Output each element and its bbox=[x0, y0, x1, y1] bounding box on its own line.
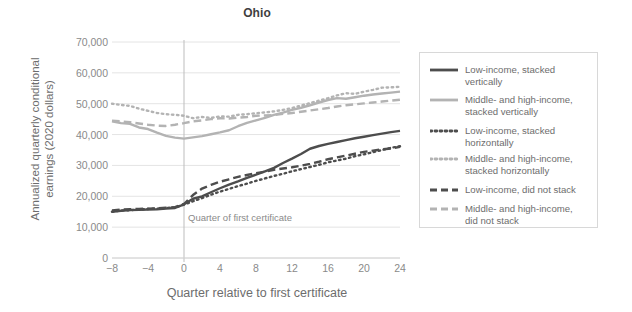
legend-item[interactable]: Middle- and high-income, did not stack bbox=[430, 203, 573, 226]
legend-item[interactable]: Low-income, stacked horizontally bbox=[430, 125, 555, 148]
x-axis-label: Quarter relative to first certificate bbox=[112, 286, 402, 300]
legend-label: Low-income, stacked vertically bbox=[465, 64, 555, 87]
legend-label: Low-income, stacked horizontally bbox=[465, 125, 555, 148]
chart-figure: Ohio Annualized quarterly conditional ea… bbox=[0, 0, 632, 312]
legend-item[interactable]: Low-income, did not stack bbox=[430, 184, 576, 197]
chart-legend: Low-income, stacked verticallyMiddle- an… bbox=[419, 52, 598, 228]
legend-swatch-solid-icon bbox=[430, 65, 458, 77]
series-line-0 bbox=[112, 131, 400, 212]
legend-label: Middle- and high-income, stacked vertica… bbox=[465, 94, 573, 117]
series-line-4 bbox=[112, 147, 400, 211]
certificate-annotation: Quarter of first certificate bbox=[188, 212, 292, 223]
legend-swatch-dotted-icon bbox=[430, 126, 458, 138]
series-line-3 bbox=[112, 87, 400, 118]
legend-swatch-dashed-icon bbox=[430, 185, 458, 197]
legend-label: Middle- and high-income, stacked horizon… bbox=[465, 153, 573, 176]
legend-item[interactable]: Middle- and high-income, stacked vertica… bbox=[430, 94, 573, 117]
series-line-2 bbox=[112, 146, 400, 211]
legend-swatch-dashed-icon bbox=[430, 204, 458, 216]
legend-label: Middle- and high-income, did not stack bbox=[465, 203, 573, 226]
legend-item[interactable]: Low-income, stacked vertically bbox=[430, 64, 555, 87]
legend-swatch-solid-icon bbox=[430, 95, 458, 107]
legend-item[interactable]: Middle- and high-income, stacked horizon… bbox=[430, 153, 573, 176]
legend-label: Low-income, did not stack bbox=[465, 184, 576, 196]
legend-swatch-dotted-icon bbox=[430, 154, 458, 166]
